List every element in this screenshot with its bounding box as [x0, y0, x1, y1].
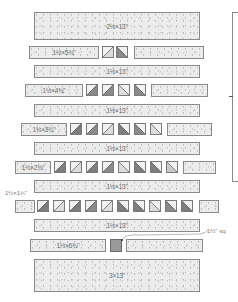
hst-dark-up [86, 123, 98, 135]
hst-dark-down [134, 84, 146, 96]
strip-2-5x13: 2½×13" [34, 12, 200, 40]
strip-1-5x4-75: 1½×4¾" [25, 84, 83, 97]
hst-dark-up [102, 84, 114, 96]
hst-dark-down [150, 161, 162, 173]
hst-light-down [149, 200, 161, 212]
hst-dark-up [70, 123, 82, 135]
hst-dark-up [37, 200, 49, 212]
strip-1-5x13: 1½×13" [34, 180, 200, 193]
strip-1-5x2-75: 1½×2¾" [15, 161, 51, 174]
strip-right [151, 84, 208, 97]
strip-label: 3×13" [109, 272, 125, 279]
hst-light-up [70, 161, 82, 173]
hst-dark-up [69, 200, 81, 212]
hst-dark-down [134, 123, 146, 135]
strip-label: 1½×13" [106, 68, 127, 75]
hst-light-down [118, 161, 130, 173]
hst-light-up [53, 200, 65, 212]
strip-label: 1½×3¾" [33, 126, 56, 133]
strip-label: 1½×13" [106, 183, 127, 190]
hst-light-down [118, 84, 130, 96]
hst-dark-up [86, 84, 98, 96]
hst-dark-down [165, 200, 177, 212]
hst-light-up [101, 200, 113, 212]
hst-dark-up [85, 200, 97, 212]
strip-right [199, 200, 219, 213]
leader-line [120, 228, 210, 242]
strip-label: 1½×2¾" [22, 164, 45, 171]
strip-right [134, 46, 204, 59]
hst-dark-down [118, 123, 130, 135]
bracket-arrow-icon [229, 96, 233, 97]
hst-dark-down [134, 161, 146, 173]
strip-label: 1½×4¾" [43, 87, 66, 94]
side-label-1-5x1-75: 1½×1¾" [5, 190, 27, 196]
strip-1-5x13: 1½×13" [34, 65, 200, 78]
strip-right [167, 123, 212, 136]
strip-1-5x6-75: 1½×6¾" [30, 239, 106, 252]
hst-light-down [166, 161, 178, 173]
hst-dark-down [117, 200, 129, 212]
strip-1-5x13: 1½×13" [34, 142, 200, 155]
bracket [232, 12, 238, 182]
hst-dark-up [54, 161, 66, 173]
strip-label: 1½×6¾" [57, 242, 80, 249]
strip-1-5x13: 1½×13" [34, 104, 200, 117]
hst-light-down [150, 123, 162, 135]
strip-right [183, 161, 216, 174]
strip-label: 1½×5¾" [53, 49, 76, 56]
hst-dark-down [181, 200, 193, 212]
strip-1-5x3-75: 1½×3¾" [21, 123, 67, 136]
strip-3x13: 3×13" [34, 259, 200, 292]
hst-dark-down [133, 200, 145, 212]
hst-light-up [102, 123, 114, 135]
hst-light-up [102, 46, 114, 58]
hst-dark-up [86, 161, 98, 173]
strip-label: 2½×13" [106, 23, 127, 30]
strip-1-5x5-75: 1½×5¾" [29, 46, 99, 59]
hst-dark-down [116, 46, 128, 58]
strip-label: 1½×13" [106, 145, 127, 152]
hst-dark-up [102, 161, 114, 173]
strip-1-5x1-75 [15, 200, 35, 213]
strip-label: 1½×13" [106, 107, 127, 114]
